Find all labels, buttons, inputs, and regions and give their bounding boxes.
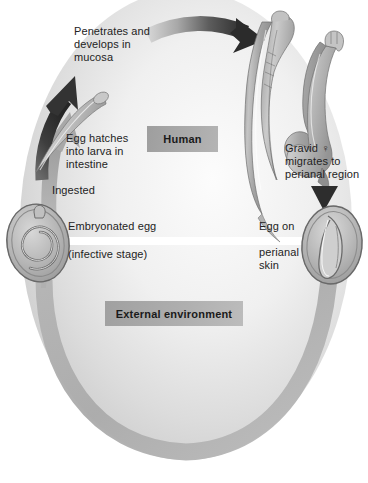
label-gravid-female-migrates: Gravid ♀ migrates to perianal region: [285, 142, 359, 182]
lifecycle-diagram: Human External environment Penetrates an…: [0, 0, 368, 483]
diagram-artwork: [0, 0, 368, 483]
zone-label-human: Human: [147, 126, 218, 152]
zone-label-external-environment: External environment: [105, 301, 243, 326]
label-perianal-skin: perianal skin: [259, 246, 299, 272]
label-penetrates-mucosa: Penetrates and develops in mucosa: [74, 25, 150, 65]
label-infective-stage: (infective stage): [68, 248, 147, 261]
label-embryonated-egg: Embryonated egg: [68, 220, 156, 233]
label-egg-on: Egg on: [259, 220, 294, 233]
label-ingested: Ingested: [52, 184, 95, 197]
label-egg-hatches-into-larva: Egg hatches into larva in intestine: [66, 132, 128, 172]
